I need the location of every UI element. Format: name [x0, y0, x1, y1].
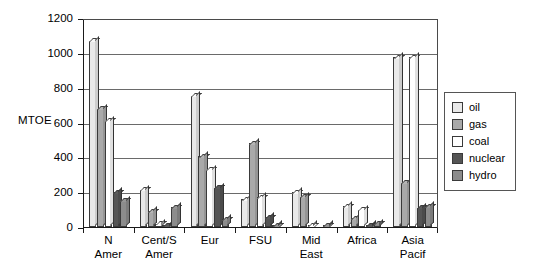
bar-group — [241, 19, 279, 227]
bar-slot — [241, 19, 248, 227]
bar-slot — [308, 19, 315, 227]
bar-slot — [257, 19, 264, 227]
bar-slot — [89, 19, 96, 227]
bar-slot — [97, 19, 104, 227]
bar-coal-n-amer — [105, 121, 112, 227]
bar-slot — [206, 19, 213, 227]
bar-gas-mid-east — [300, 197, 307, 227]
legend-swatch-oil — [452, 102, 463, 113]
bar-oil-mid-east — [292, 192, 299, 227]
legend-label-oil: oil — [469, 102, 480, 113]
bar-oil-africa — [343, 206, 350, 227]
bar-coal-fsu — [257, 197, 264, 227]
bar-hydro-fsu — [272, 225, 279, 227]
bar-group — [191, 19, 229, 227]
bar-slot — [417, 19, 424, 227]
bar-nuclear-fsu — [265, 217, 272, 227]
y-tick-label: 600 — [54, 118, 73, 130]
bar-slot — [300, 19, 307, 227]
bar-slot — [113, 19, 120, 227]
bar-slot — [105, 19, 112, 227]
legend-item-nuclear: nuclear — [452, 150, 509, 167]
bar-slot — [120, 19, 127, 227]
legend-swatch-hydro — [452, 170, 463, 181]
bar-coal-mid-east — [308, 225, 315, 227]
y-tick-label: 1200 — [47, 13, 73, 25]
bar-gas-asia-pacif — [401, 183, 408, 227]
bar-slot — [249, 19, 256, 227]
energy-consumption-bar-chart: MTOE 020040060080010001200 N AmerCent/S … — [0, 0, 538, 276]
legend-swatch-coal — [452, 136, 463, 147]
bar-slot — [401, 19, 408, 227]
bar-hydro-africa — [374, 224, 381, 227]
legend-swatch-nuclear — [452, 153, 463, 164]
bar-nuclear-asia-pacif — [417, 208, 424, 227]
bar-coal-eur — [206, 170, 213, 227]
bar-gas-africa — [351, 218, 358, 227]
bar-coal-asia-pacif — [409, 57, 416, 227]
bar-slot — [409, 19, 416, 227]
bar-nuclear-eur — [214, 188, 221, 227]
bar-slot — [148, 19, 155, 227]
bar-oil-fsu — [241, 199, 248, 227]
x-axis-label-asia-pacif: Asia Pacif — [378, 233, 448, 261]
bar-slot — [198, 19, 205, 227]
bar-slot — [351, 19, 358, 227]
bar-oil-cent-s-amer — [140, 190, 147, 227]
bar-gas-eur — [198, 156, 205, 227]
legend-label-gas: gas — [469, 119, 487, 130]
bar-hydro-asia-pacif — [425, 206, 432, 227]
bar-slot — [343, 19, 350, 227]
bar-slot — [374, 19, 381, 227]
bar-slot — [358, 19, 365, 227]
plot-frame-top — [83, 19, 438, 20]
legend-item-coal: coal — [452, 133, 509, 150]
y-tick-label: 0 — [67, 222, 73, 234]
plot-area — [83, 19, 438, 228]
bar-slot — [214, 19, 221, 227]
bar-group — [343, 19, 381, 227]
bar-group — [393, 19, 431, 227]
bar-slot — [191, 19, 198, 227]
bar-gas-cent-s-amer — [148, 211, 155, 227]
bar-groups — [84, 19, 438, 227]
legend-item-oil: oil — [452, 99, 509, 116]
bar-slot — [140, 19, 147, 227]
bar-slot — [292, 19, 299, 227]
bar-oil-n-amer — [89, 41, 96, 227]
bar-hydro-cent-s-amer — [171, 207, 178, 227]
bar-gas-fsu — [249, 143, 256, 227]
y-tick-label: 1000 — [47, 48, 73, 60]
bar-slot — [163, 19, 170, 227]
bar-group — [292, 19, 330, 227]
y-tick-label: 800 — [54, 83, 73, 95]
bar-slot — [265, 19, 272, 227]
bar-oil-asia-pacif — [393, 57, 400, 227]
bar-slot — [315, 19, 322, 227]
y-tick-label: 200 — [54, 187, 73, 199]
legend-item-hydro: hydro — [452, 167, 509, 184]
bar-coal-africa — [358, 210, 365, 227]
bar-slot — [272, 19, 279, 227]
bar-nuclear-africa — [366, 225, 373, 227]
legend-label-nuclear: nuclear — [469, 153, 505, 164]
y-axis-ticks: 020040060080010001200 — [0, 0, 83, 276]
bar-group — [140, 19, 178, 227]
y-tick-label: 400 — [54, 153, 73, 165]
bar-slot — [425, 19, 432, 227]
bar-slot — [222, 19, 229, 227]
bar-nuclear-n-amer — [113, 192, 120, 227]
bar-oil-eur — [191, 96, 198, 227]
bar-slot — [171, 19, 178, 227]
bar-slot — [155, 19, 162, 227]
bar-hydro-eur — [222, 219, 229, 227]
bar-nuclear-cent-s-amer — [163, 225, 170, 227]
x-axis-labels: N AmerCent/S AmerEurFSUMid EastAfricaAsi… — [83, 233, 438, 275]
legend-swatch-gas — [452, 119, 463, 130]
plot-frame-right — [437, 19, 438, 228]
legend-label-coal: coal — [469, 136, 489, 147]
bar-slot — [366, 19, 373, 227]
bar-hydro-mid-east — [323, 225, 330, 227]
bar-slot — [393, 19, 400, 227]
bar-group — [89, 19, 127, 227]
